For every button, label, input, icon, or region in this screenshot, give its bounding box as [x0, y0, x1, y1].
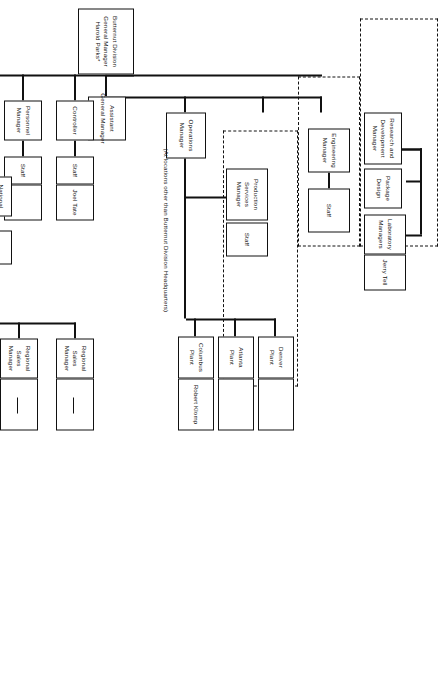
node-package-design[interactable]: Package Design	[364, 168, 402, 208]
line-assistant-to-operations	[184, 96, 186, 112]
node-line: Atlanta	[236, 347, 245, 367]
node-line: Operations	[186, 119, 195, 151]
node-line: Manager	[177, 122, 186, 147]
node-controller[interactable]: Controller	[56, 100, 94, 140]
line-rd-to-package-drop	[406, 180, 422, 182]
node-denver-plant-manager[interactable]	[258, 378, 294, 430]
node-regional-1-districts[interactable]	[56, 378, 94, 430]
line-rd-to-lab-drop	[406, 234, 422, 236]
line-controller-to-staff	[74, 140, 76, 156]
node-line: Staff	[19, 163, 28, 176]
line-operations-to-prodserv	[186, 196, 226, 198]
node-line: Jerry Tell	[381, 259, 390, 285]
node-line: Plant	[267, 350, 276, 365]
line-assistant-to-engineering	[262, 96, 264, 112]
node-general-manager[interactable]: Butternut Division General Manager Harol…	[78, 8, 134, 74]
node-line: Managers	[376, 220, 385, 249]
node-line: Manager	[62, 345, 71, 370]
node-line: Manager	[14, 107, 23, 132]
line-region-2	[18, 322, 20, 338]
node-atlanta-plant[interactable]: Atlanta Plant	[218, 336, 254, 378]
node-national-sales-staff[interactable]: Staff	[0, 230, 12, 264]
node-research-development-manager[interactable]: Research and Development Manager	[364, 112, 402, 164]
line-gm-to-controller	[74, 74, 76, 100]
node-line: Package	[383, 175, 392, 200]
node-line: Manager	[320, 137, 329, 162]
node-engineering-staff[interactable]: Staff	[308, 188, 350, 232]
node-line: Robert Klomp	[192, 384, 201, 424]
node-line: Plant	[187, 350, 196, 365]
node-columbus-plant[interactable]: Columbus Plant	[178, 336, 214, 378]
node-line: Columbus	[196, 342, 205, 371]
node-line: Sales	[15, 350, 24, 366]
node-production-services-manager[interactable]: Production Services Manager	[226, 168, 268, 220]
line-gm-spine	[106, 74, 322, 76]
node-line: Joel Tate	[71, 189, 80, 215]
node-regional-2-districts[interactable]	[0, 378, 38, 430]
line-plants-spine	[186, 318, 276, 320]
node-denver-plant[interactable]: Denver Plant	[258, 336, 294, 378]
line-assistant-to-rd	[320, 96, 322, 112]
node-line: Harold Parks*	[93, 21, 102, 61]
line-regions-spine	[0, 322, 76, 324]
node-line: Butternut Division	[110, 15, 119, 66]
node-regional-sales-manager-1[interactable]: Regional Sales Manager	[56, 338, 94, 378]
line-plants-to-atlanta	[234, 318, 236, 336]
line-plants-to-denver	[274, 318, 276, 336]
node-laboratory-managers[interactable]: Laboratory Managers	[364, 214, 406, 254]
node-laboratory-manager-name[interactable]: Jerry Tell	[364, 254, 406, 290]
node-line: Development	[379, 119, 388, 157]
node-regional-sales-manager-2[interactable]: Regional Sales Manager	[0, 338, 38, 378]
node-line: Staff	[243, 232, 252, 245]
node-operations-manager[interactable]: Operations Manager	[166, 112, 206, 158]
node-line: Sales	[71, 350, 80, 366]
node-engineering-manager[interactable]: Engineering Manager	[308, 128, 350, 172]
line-gm-to-personnel	[22, 74, 24, 100]
line-rd-up	[402, 148, 422, 150]
line-region-1	[74, 322, 76, 338]
node-line: Design	[374, 178, 383, 198]
node-line: Services	[243, 182, 252, 207]
node-line: Assistant	[107, 105, 116, 131]
node-line: Plant	[227, 350, 236, 365]
node-line: Manager	[6, 345, 15, 370]
line-personnel-to-staff	[22, 140, 24, 156]
node-controller-staff-name[interactable]: Joel Tate	[56, 184, 94, 220]
node-line: Personnel	[23, 105, 32, 134]
line-assistant-stem	[106, 96, 322, 98]
node-personnel-manager[interactable]: Personnel Manager	[4, 100, 42, 140]
node-atlanta-plant-manager[interactable]	[218, 378, 254, 430]
node-line: Regional	[79, 345, 88, 371]
node-line: Laboratory	[385, 218, 394, 249]
node-line: General Manager	[98, 93, 107, 143]
node-line: General Manager	[102, 16, 111, 66]
node-national-sales-manager[interactable]: National Sales Manager	[0, 176, 12, 216]
node-line: National	[0, 184, 5, 208]
line-engineering-to-staff	[328, 172, 330, 188]
node-line: Controller	[71, 106, 80, 134]
node-columbus-plant-manager[interactable]: Robert Klomp	[178, 378, 214, 430]
node-line: Production	[251, 178, 260, 209]
org-chart-canvas: Butternut Division General Manager Harol…	[0, 0, 444, 687]
line-operations-right	[184, 150, 186, 318]
node-line: Regional	[23, 345, 32, 371]
line-rd-to-lab	[420, 148, 422, 234]
district-tick	[17, 397, 18, 413]
node-controller-staff[interactable]: Staff	[56, 156, 94, 184]
node-line: Manager	[234, 181, 243, 206]
plants-group-annotation: (At locations other than Butternut Divis…	[162, 148, 170, 398]
node-line: Staff	[325, 203, 334, 216]
node-line: Staff	[71, 163, 80, 176]
node-line: Research and	[387, 118, 396, 158]
node-line: Engineering	[329, 133, 338, 168]
node-line: Denver	[276, 347, 285, 368]
node-line: Manager	[370, 125, 379, 150]
district-tick	[73, 397, 74, 413]
node-production-services-staff[interactable]: Staff	[226, 222, 268, 256]
line-plants-to-columbus	[194, 318, 196, 336]
